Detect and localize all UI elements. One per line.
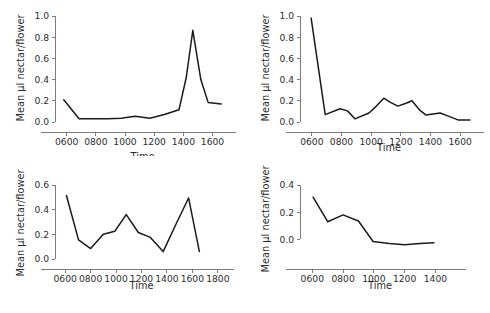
x-axis-title: Time: [129, 280, 154, 291]
x-tick-label: 0600: [301, 273, 325, 284]
x-axis-title: Time: [376, 142, 401, 153]
y-tick-label: 1.0: [34, 10, 49, 21]
y-tick-label: 0.0: [34, 253, 49, 264]
chart-panel-bottom-right: 0.00.20.406000800100012001400Mean µl nec…: [245, 157, 490, 313]
chart-panel-top-left: 0.00.20.40.60.81.00600080010001200140016…: [0, 0, 245, 156]
y-tick-label: 0.0: [279, 116, 294, 127]
y-tick-label: 1.0: [279, 10, 294, 21]
y-tick-label: 0.4: [34, 74, 49, 85]
plot-area: 0.00.20.40.60600080010001200140016001800…: [0, 157, 245, 313]
chart-panel-top-right: 0.00.20.40.60.81.00600080010001200140016…: [245, 0, 490, 156]
x-tick-label: 0800: [331, 273, 355, 284]
x-tick-label: 0800: [330, 136, 354, 147]
y-tick-label: 0.4: [279, 179, 294, 190]
x-tick-label: 1600: [201, 136, 225, 147]
x-tick-label: 1600: [181, 273, 205, 284]
x-tick-label: 1000: [113, 136, 137, 147]
chart-panel-bottom-left: 0.00.20.40.60600080010001200140016001800…: [0, 157, 245, 313]
x-tick-label: 0800: [84, 136, 108, 147]
x-tick-label: 1200: [393, 273, 417, 284]
y-axis-title: Mean µl nectar/flower: [15, 169, 26, 277]
x-tick-label: 0600: [53, 273, 77, 284]
y-tick-label: 0.6: [34, 53, 49, 64]
y-tick-label: 0.6: [34, 179, 49, 190]
x-axis-title: Time: [367, 280, 392, 291]
y-tick-label: 0.2: [279, 95, 294, 106]
y-axis-title: Mean µl nectar/flower: [15, 14, 26, 122]
y-tick-label: 0.4: [34, 204, 49, 215]
x-tick-label: 1400: [424, 273, 448, 284]
y-axis-title: Mean µl nectar/flower: [260, 14, 271, 122]
x-tick-label: 1400: [419, 136, 443, 147]
data-series-line: [66, 195, 199, 251]
y-tick-label: 0.2: [279, 207, 294, 218]
x-tick-label: 0600: [300, 136, 324, 147]
plot-area: 0.00.20.40.60.81.00600080010001200140016…: [0, 0, 245, 156]
x-tick-label: 1600: [449, 136, 473, 147]
y-tick-label: 0.2: [34, 229, 49, 240]
y-tick-label: 0.8: [279, 32, 294, 43]
data-series-line: [313, 197, 434, 245]
data-series-line: [311, 18, 470, 120]
y-tick-label: 0.0: [279, 234, 294, 245]
x-tick-label: 1400: [155, 273, 179, 284]
data-series-line: [64, 30, 222, 119]
nectar-multipanel-figure: 0.00.20.40.60.81.00600080010001200140016…: [0, 0, 490, 313]
y-tick-label: 0.6: [279, 53, 294, 64]
plot-area: 0.00.20.406000800100012001400Mean µl nec…: [245, 157, 490, 313]
y-tick-label: 0.4: [279, 74, 294, 85]
x-tick-label: 1400: [172, 136, 196, 147]
x-tick-label: 1800: [206, 273, 230, 284]
plot-area: 0.00.20.40.60.81.00600080010001200140016…: [245, 0, 490, 156]
x-tick-label: 1000: [104, 273, 128, 284]
y-tick-label: 0.0: [34, 116, 49, 127]
x-tick-label: 1200: [142, 136, 166, 147]
x-axis-title: Time: [130, 151, 155, 156]
y-tick-label: 0.8: [34, 32, 49, 43]
x-tick-label: 0600: [55, 136, 79, 147]
y-axis-title: Mean µl nectar/flower: [260, 165, 271, 273]
x-tick-label: 0800: [79, 273, 103, 284]
y-tick-label: 0.2: [34, 95, 49, 106]
